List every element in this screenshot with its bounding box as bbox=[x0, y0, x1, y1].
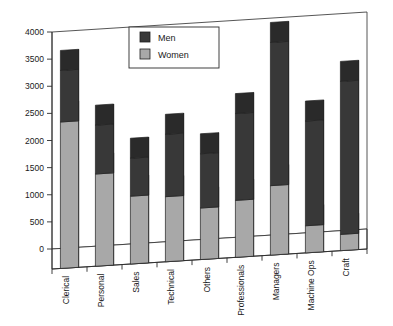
y-axis-tick-label: 2500 bbox=[25, 108, 44, 118]
men-front-face bbox=[165, 133, 183, 197]
x-axis-category-label: Clerical bbox=[62, 276, 72, 304]
y-axis-tick-label: 2000 bbox=[25, 136, 44, 146]
x-axis-category-label: Technical bbox=[167, 269, 177, 305]
bar-top-face bbox=[165, 113, 183, 134]
bar-sales[interactable] bbox=[130, 137, 148, 264]
bar-top-face bbox=[60, 49, 78, 70]
men-front-face bbox=[305, 120, 323, 226]
bar-top-face bbox=[95, 104, 113, 125]
men-front-face bbox=[235, 112, 253, 200]
bar-managers[interactable] bbox=[270, 21, 288, 255]
bar-top-face bbox=[340, 60, 358, 81]
bar-technical[interactable] bbox=[165, 113, 183, 262]
women-front-face bbox=[95, 173, 113, 266]
women-front-face bbox=[305, 225, 323, 253]
chart-legend[interactable]: MenWomen bbox=[129, 27, 219, 68]
men-front-face bbox=[340, 80, 358, 234]
y-axis-tick-label: 3000 bbox=[25, 81, 44, 91]
chart-container: 05001000150020002500300035004000 Clerica… bbox=[0, 0, 393, 326]
men-front-face bbox=[130, 157, 148, 196]
bar-top-face bbox=[130, 137, 148, 158]
women-front-face bbox=[60, 121, 78, 269]
bar-clerical[interactable] bbox=[60, 49, 78, 268]
men-front-face bbox=[95, 124, 113, 174]
y-axis-ticks: 05001000150020002500300035004000 bbox=[25, 27, 52, 254]
legend-swatch-women[interactable] bbox=[140, 49, 150, 59]
women-front-face bbox=[165, 196, 183, 262]
men-front-face bbox=[60, 69, 78, 122]
women-front-face bbox=[235, 199, 253, 257]
bar-top-face bbox=[235, 92, 253, 113]
women-front-face bbox=[130, 195, 148, 264]
legend-label-women: Women bbox=[158, 50, 189, 60]
x-axis-category-label: Professionals bbox=[237, 265, 247, 316]
women-front-face bbox=[270, 185, 288, 256]
bar-top-face bbox=[200, 133, 218, 154]
y-axis-tick-label: 4000 bbox=[25, 27, 44, 37]
x-axis-category-label: Craft bbox=[342, 257, 352, 276]
y-axis-tick-label: 3500 bbox=[25, 54, 44, 64]
x-axis-category-label: Machine Ops bbox=[307, 260, 317, 310]
y-axis-tick-label: 1500 bbox=[25, 163, 44, 173]
legend-label-men: Men bbox=[158, 33, 176, 43]
stacked-bar-chart: 05001000150020002500300035004000 Clerica… bbox=[0, 0, 393, 326]
x-axis-category-label: Others bbox=[202, 267, 212, 293]
bar-machine-ops[interactable] bbox=[305, 100, 323, 253]
legend-swatch-men[interactable] bbox=[140, 32, 150, 42]
women-front-face bbox=[200, 207, 218, 260]
y-axis-tick-label: 1000 bbox=[25, 190, 44, 200]
bar-personal[interactable] bbox=[95, 104, 113, 266]
y-axis-tick-label: 0 bbox=[39, 244, 44, 254]
bar-others[interactable] bbox=[200, 133, 218, 260]
bar-craft[interactable] bbox=[340, 60, 358, 250]
x-axis-category-label: Sales bbox=[132, 271, 142, 292]
bar-top-face bbox=[270, 21, 288, 42]
women-front-face bbox=[340, 233, 358, 250]
bar-top-face bbox=[305, 100, 323, 121]
men-front-face bbox=[270, 41, 288, 185]
x-axis-labels: ClericalPersonalSalesTechnicalOthersProf… bbox=[62, 257, 352, 315]
x-axis-category-label: Personal bbox=[97, 274, 107, 308]
bar-professionals[interactable] bbox=[235, 92, 253, 257]
x-axis-category-label: Managers bbox=[272, 263, 282, 301]
y-axis-tick-label: 500 bbox=[30, 217, 44, 227]
men-front-face bbox=[200, 153, 218, 208]
